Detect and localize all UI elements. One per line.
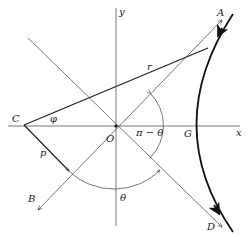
perpendicular-label: p <box>40 147 47 158</box>
point-b-label: B <box>27 193 35 204</box>
angle-pi-minus-theta-label: π − θ <box>135 127 163 138</box>
x-axis-label: x <box>236 127 242 138</box>
asymptote-a-b <box>38 20 222 210</box>
hyperbolic-orbit-diagram: y x O A B C D G r p φ θ π − θ <box>0 0 248 237</box>
hyperbola-branch <box>197 14 234 232</box>
angle-theta-label: θ <box>120 192 126 203</box>
point-a-label: A <box>216 7 224 18</box>
perpendicular-p <box>24 125 69 171</box>
origin-point <box>114 124 117 127</box>
angle-phi-label: φ <box>50 113 57 124</box>
point-g-label: G <box>184 128 192 139</box>
y-axis-label: y <box>118 6 125 17</box>
origin-label: O <box>106 133 114 144</box>
radius-label: r <box>147 61 153 72</box>
point-d-label: D <box>206 221 215 232</box>
point-c-label: C <box>12 113 20 124</box>
angle-arc-theta <box>69 170 160 189</box>
angle-arc-pi-minus-theta <box>150 93 163 158</box>
